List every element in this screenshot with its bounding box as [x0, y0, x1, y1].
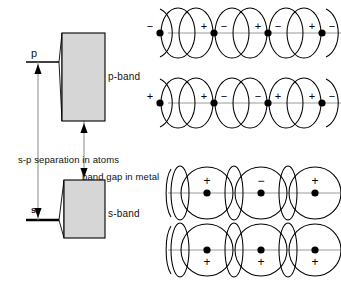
- band-gap-label: band gap in metal: [82, 172, 159, 182]
- svg-text:+: +: [201, 90, 207, 102]
- p-level-label: p: [31, 48, 37, 59]
- svg-text:−: −: [221, 20, 227, 32]
- s-band-row-2: + + +: [166, 223, 341, 277]
- svg-text:+: +: [255, 20, 261, 32]
- svg-text:−: −: [329, 90, 335, 102]
- s-band-label: s-band: [108, 209, 140, 219]
- p-band-row-2: +− −+ +− +: [147, 78, 341, 128]
- sp-separation-label: s-p separation in atoms: [18, 155, 119, 165]
- svg-text:+: +: [311, 174, 318, 188]
- svg-text:−: −: [221, 90, 227, 102]
- s-band-connector: [59, 180, 64, 238]
- sp-separation-arrow: [34, 62, 41, 220]
- svg-text:−: −: [257, 174, 264, 188]
- svg-text:+: +: [257, 255, 264, 269]
- svg-text:+: +: [309, 20, 315, 32]
- svg-text:+: +: [275, 90, 281, 102]
- svg-text:+: +: [309, 90, 315, 102]
- p-band-rect: [62, 33, 105, 121]
- svg-text:+: +: [203, 174, 210, 188]
- p-band-label: p-band: [108, 72, 140, 82]
- svg-text:+: +: [311, 255, 318, 269]
- svg-text:+: +: [147, 90, 153, 102]
- svg-text:+: +: [203, 255, 210, 269]
- svg-text:−: −: [275, 20, 281, 32]
- svg-text:−: −: [147, 20, 153, 32]
- s-level-label: s: [31, 206, 36, 215]
- s-band-row-1: + − +: [166, 166, 341, 220]
- diagram-canvas: +− +− +− − +−: [0, 0, 341, 288]
- svg-text:+: +: [201, 20, 207, 32]
- svg-text:−: −: [329, 20, 335, 32]
- s-band-rect: [64, 180, 105, 238]
- band-structure-diagram: +− +− +− − +−: [0, 0, 341, 288]
- p-band-row-1: +− +− +− −: [147, 8, 341, 58]
- svg-text:−: −: [255, 90, 261, 102]
